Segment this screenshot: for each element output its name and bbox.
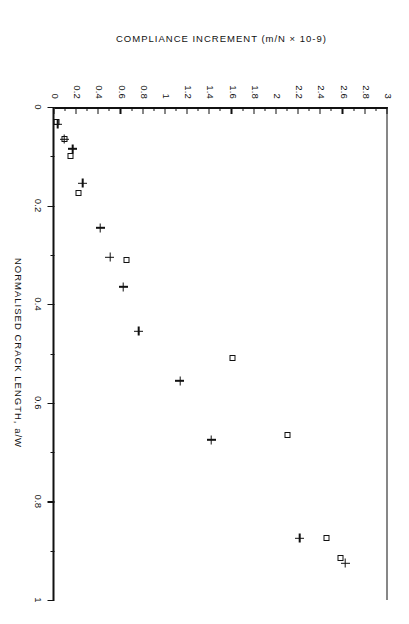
x-tick <box>47 403 54 404</box>
x-tick <box>50 354 54 355</box>
data-point-plus <box>78 179 87 188</box>
y-tick <box>208 107 209 114</box>
x-tick <box>50 156 54 157</box>
data-point-plus <box>95 223 104 232</box>
x-tick <box>50 255 54 256</box>
data-point-plus <box>53 120 62 129</box>
data-point-plus <box>295 534 304 543</box>
plot-frame <box>54 107 387 600</box>
x-tick-label: 0.4 <box>32 297 43 311</box>
x-tick <box>47 501 54 502</box>
y-tick <box>197 107 198 111</box>
x-tick-label: 0 <box>32 104 43 109</box>
y-tick <box>330 107 331 111</box>
y-tick <box>364 107 365 114</box>
y-tick <box>53 107 54 114</box>
y-tick <box>108 107 109 111</box>
y-tick <box>64 107 65 111</box>
data-point-plus <box>105 253 114 262</box>
y-tick <box>264 107 265 111</box>
y-tick <box>253 107 254 114</box>
data-point-square <box>284 432 290 438</box>
y-tick <box>97 107 98 114</box>
y-tick <box>275 107 276 114</box>
data-point-square <box>123 257 129 263</box>
y-tick <box>153 107 154 111</box>
y-tick <box>164 107 165 114</box>
y-tick <box>375 107 376 111</box>
y-tick <box>242 107 243 111</box>
data-point-square <box>229 355 235 361</box>
data-point-plus <box>118 282 127 291</box>
data-point-plus <box>60 135 69 144</box>
data-point-square <box>75 190 81 196</box>
x-tick-label: 0.2 <box>32 199 43 213</box>
x-tick-label: 0.6 <box>32 396 43 410</box>
y-tick <box>386 107 387 114</box>
y-tick <box>119 107 120 114</box>
x-tick-label: 1 <box>32 597 43 602</box>
figure-canvas: 00.20.40.60.81 00.20.40.60.811.21.41.61.… <box>0 0 409 624</box>
x-tick-label: 0.8 <box>32 494 43 508</box>
x-tick <box>50 551 54 552</box>
y-tick <box>75 107 76 114</box>
y-tick <box>353 107 354 111</box>
y-tick <box>86 107 87 111</box>
x-tick <box>50 452 54 453</box>
data-point-plus <box>206 435 215 444</box>
y-tick <box>131 107 132 111</box>
data-point-plus <box>340 559 349 568</box>
y-tick <box>308 107 309 111</box>
x-axis-title: NORMALISED CRACK LENGTH, a/W <box>12 258 23 448</box>
y-tick <box>297 107 298 114</box>
data-point-plus <box>175 376 184 385</box>
data-point-plus <box>68 144 77 153</box>
y-tick <box>230 107 231 114</box>
y-tick <box>142 107 143 114</box>
y-tick <box>341 107 342 114</box>
y-tick <box>286 107 287 111</box>
data-point-plus <box>134 327 143 336</box>
data-point-square <box>67 153 73 159</box>
data-point-square <box>323 535 329 541</box>
y-tick <box>175 107 176 111</box>
x-tick <box>47 206 54 207</box>
y-tick <box>219 107 220 111</box>
y-axis-title: COMPLIANCE INCREMENT (m/N × 10-9) <box>116 33 327 44</box>
x-tick <box>47 304 54 305</box>
x-tick <box>47 600 54 601</box>
y-tick <box>319 107 320 114</box>
y-tick <box>186 107 187 114</box>
